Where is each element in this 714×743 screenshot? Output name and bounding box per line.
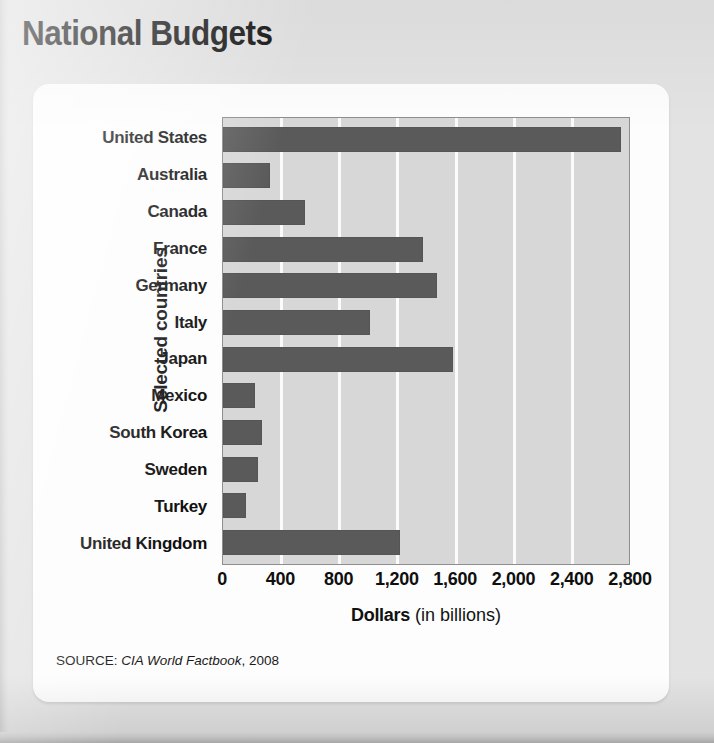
category-label: Turkey <box>33 494 216 519</box>
category-label: Australia <box>33 163 216 188</box>
chart-card: Selected countries United StatesAustrali… <box>33 84 669 702</box>
bar-row[interactable] <box>223 310 629 335</box>
bar-row[interactable] <box>223 163 629 188</box>
bar-row[interactable] <box>223 383 629 408</box>
bar[interactable] <box>223 347 453 372</box>
x-axis-tick-2400: 2,400 <box>550 569 594 590</box>
bar-row[interactable] <box>223 347 629 372</box>
x-axis-tick-400: 400 <box>266 569 295 590</box>
category-label: France <box>33 236 216 261</box>
bar[interactable] <box>223 383 255 408</box>
bar[interactable] <box>223 530 400 555</box>
page-canvas: National Budgets Selected countries Unit… <box>0 0 714 743</box>
bar-row[interactable] <box>223 493 629 518</box>
source-publication: CIA World Factbook <box>121 653 241 668</box>
page-edge-left <box>0 0 9 743</box>
source-year: , 2008 <box>242 653 280 668</box>
bar-row[interactable] <box>223 420 629 445</box>
bar[interactable] <box>223 273 437 298</box>
x-axis-tick-2000: 2,000 <box>492 569 536 590</box>
x-axis-title: Dollars (in billions) <box>222 605 630 626</box>
category-label: United Kingdom <box>33 531 216 556</box>
bar[interactable] <box>223 310 370 335</box>
category-label: Canada <box>33 200 216 225</box>
category-label-list: United StatesAustraliaCanadaFranceGerman… <box>33 117 216 565</box>
page-edge-bottom <box>0 732 714 743</box>
category-label: Italy <box>33 310 216 335</box>
category-label: Germany <box>33 273 216 298</box>
bar[interactable] <box>223 163 270 188</box>
category-label: Sweden <box>33 457 216 482</box>
bar-row[interactable] <box>223 530 629 555</box>
bar-row[interactable] <box>223 200 629 225</box>
x-axis-tick-2800: 2,800 <box>608 569 652 590</box>
x-axis-tick-800: 800 <box>324 569 353 590</box>
bar-row[interactable] <box>223 127 629 152</box>
bar-row[interactable] <box>223 273 629 298</box>
x-axis-title-light: (in billions) <box>415 605 501 625</box>
source-note: SOURCE: CIA World Factbook, 2008 <box>56 653 279 668</box>
bar-series <box>223 118 629 564</box>
bar[interactable] <box>223 420 262 445</box>
category-label: Mexico <box>33 384 216 409</box>
x-axis-tick-0: 0 <box>217 569 227 590</box>
x-axis-tick-1200: 1,200 <box>375 569 419 590</box>
bar-row[interactable] <box>223 457 629 482</box>
bar[interactable] <box>223 457 258 482</box>
x-axis-tick-list: 04008001,2001,6002,0002,4002,800 <box>222 569 630 595</box>
bar[interactable] <box>223 127 621 152</box>
category-label: South Korea <box>33 421 216 446</box>
gridline-2800 <box>630 118 631 564</box>
bar[interactable] <box>223 493 246 518</box>
bar-row[interactable] <box>223 237 629 262</box>
bar[interactable] <box>223 237 423 262</box>
plot-wrap <box>222 117 630 565</box>
source-prefix: SOURCE: <box>56 653 118 668</box>
x-axis-tick-1600: 1,600 <box>433 569 477 590</box>
category-label: Japan <box>33 347 216 372</box>
plot-area <box>222 117 630 565</box>
x-axis-title-strong: Dollars <box>351 605 410 625</box>
page-title: National Budgets <box>22 13 272 53</box>
category-label: United States <box>33 126 216 151</box>
bar[interactable] <box>223 200 305 225</box>
